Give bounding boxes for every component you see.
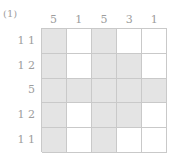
grid-cell-filled[interactable] (117, 79, 142, 104)
grid-cell-filled[interactable] (42, 29, 67, 54)
grid-cell-filled[interactable] (42, 128, 67, 153)
column-clue: 1 (142, 12, 167, 28)
grid-cell-empty[interactable] (67, 103, 92, 128)
column-clue: 5 (41, 12, 66, 28)
nonogram-grid (41, 28, 167, 152)
grid-cell-filled[interactable] (142, 79, 167, 104)
grid-row (42, 128, 167, 153)
puzzle-index-label: (1) (3, 8, 17, 20)
row-clue: 1 2 (0, 53, 39, 78)
column-clue: 3 (117, 12, 142, 28)
grid-cell-empty[interactable] (67, 29, 92, 54)
grid-cell-empty[interactable] (142, 54, 167, 79)
grid-cell-filled[interactable] (92, 54, 117, 79)
grid-cell-filled[interactable] (117, 103, 142, 128)
grid-cell-filled[interactable] (92, 103, 117, 128)
column-clue: 1 (66, 12, 91, 28)
nonogram-puzzle: (1) 5 1 5 3 1 1 1 1 2 5 1 2 1 1 (0, 0, 173, 155)
grid-cell-filled[interactable] (92, 79, 117, 104)
grid-row (42, 103, 167, 128)
grid-cell-filled[interactable] (92, 29, 117, 54)
grid-row (42, 29, 167, 54)
grid-cell-empty[interactable] (117, 128, 142, 153)
grid-cell-empty[interactable] (67, 54, 92, 79)
column-clues: 5 1 5 3 1 (41, 12, 167, 28)
row-clue: 5 (0, 78, 39, 103)
grid-cell-filled[interactable] (92, 128, 117, 153)
grid-row (42, 54, 167, 79)
row-clue: 1 2 (0, 102, 39, 127)
grid-cell-empty[interactable] (117, 29, 142, 54)
grid-cell-filled[interactable] (42, 54, 67, 79)
row-clue: 1 1 (0, 127, 39, 152)
grid-cell-empty[interactable] (142, 128, 167, 153)
grid-cell-filled[interactable] (67, 79, 92, 104)
grid-cell-empty[interactable] (142, 29, 167, 54)
grid-cell-empty[interactable] (67, 128, 92, 153)
grid-row (42, 79, 167, 104)
grid-cell-empty[interactable] (142, 103, 167, 128)
grid-cell-filled[interactable] (42, 103, 67, 128)
grid-cell-filled[interactable] (42, 79, 67, 104)
grid-cell-filled[interactable] (117, 54, 142, 79)
column-clue: 5 (91, 12, 116, 28)
row-clue: 1 1 (0, 28, 39, 53)
row-clues: 1 1 1 2 5 1 2 1 1 (0, 28, 39, 152)
